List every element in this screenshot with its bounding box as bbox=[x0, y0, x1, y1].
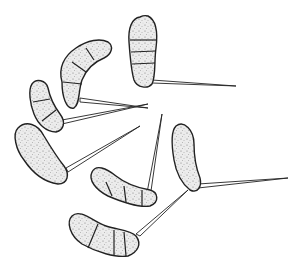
conidium-left-large bbox=[15, 124, 140, 184]
conidium-top-right bbox=[129, 16, 236, 87]
conidia-illustration bbox=[0, 0, 300, 268]
conidium-right-vertical bbox=[172, 124, 288, 191]
conidium-middle-curved bbox=[91, 114, 162, 206]
